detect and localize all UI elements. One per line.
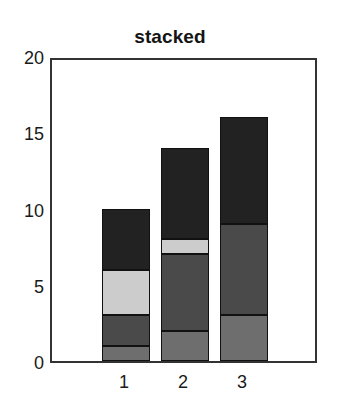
bar-segment-3-series-4[interactable] [220,117,268,224]
figure-canvas: stacked 20151050 123 [0,0,340,420]
bar-3[interactable] [220,58,268,361]
y-tick-label: 5 [0,278,44,296]
bar-segment-2-series-4[interactable] [161,148,209,240]
y-tick-label: 0 [0,354,44,372]
y-tick-label: 15 [0,125,44,143]
y-tick-label: 20 [0,49,44,67]
bar-segment-2-series-1[interactable] [161,331,209,362]
bar-segment-2-series-3[interactable] [161,239,209,254]
x-tick-label: 1 [104,372,144,392]
bar-2[interactable] [161,58,209,361]
bar-segment-1-series-3[interactable] [102,270,150,316]
plot-area [50,58,317,363]
bar-segment-3-series-1[interactable] [220,315,268,361]
x-tick-label: 3 [222,372,262,392]
bar-segment-1-series-1[interactable] [102,346,150,361]
bar-segment-1-series-2[interactable] [102,315,150,346]
chart-title: stacked [0,26,340,48]
bar-segment-1-series-4[interactable] [102,209,150,270]
bar-1[interactable] [102,58,150,361]
bar-segment-2-series-2[interactable] [161,254,209,330]
x-tick-label: 2 [163,372,203,392]
y-tick-label: 10 [0,202,44,220]
bar-segment-3-series-2[interactable] [220,224,268,316]
